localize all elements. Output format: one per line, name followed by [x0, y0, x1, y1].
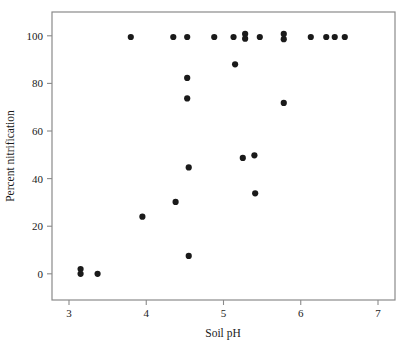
scatter-point	[251, 152, 257, 158]
y-tick-label: 100	[27, 30, 44, 42]
scatter-point	[332, 34, 338, 40]
scatter-point	[308, 34, 314, 40]
x-tick-label: 4	[143, 307, 149, 319]
scatter-point	[173, 199, 179, 205]
scatter-point	[184, 95, 190, 101]
scatter-point	[281, 36, 287, 42]
scatter-point	[184, 75, 190, 81]
y-tick-label: 0	[38, 268, 44, 280]
scatter-point	[230, 34, 236, 40]
scatter-point	[94, 271, 100, 277]
soil-ph-nitrification-scatter: 34567 020406080100 Soil pH Percent nitri…	[0, 0, 412, 349]
scatter-plot-figure: 34567 020406080100 Soil pH Percent nitri…	[0, 0, 412, 349]
y-tick-label: 60	[32, 125, 44, 137]
scatter-point	[77, 271, 83, 277]
x-tick-label: 5	[221, 307, 227, 319]
scatter-point	[240, 155, 246, 161]
x-tick-label: 3	[66, 307, 72, 319]
scatter-point	[252, 190, 258, 196]
scatter-point	[281, 100, 287, 106]
scatter-point	[232, 61, 238, 67]
y-tick-label: 80	[32, 77, 44, 89]
y-axis-title: Percent nitrification	[4, 110, 16, 202]
scatter-point	[128, 34, 134, 40]
y-tick-label: 20	[32, 220, 44, 232]
scatter-point	[139, 214, 145, 220]
scatter-point	[342, 34, 348, 40]
scatter-point	[211, 34, 217, 40]
scatter-point	[257, 34, 263, 40]
x-tick-label: 7	[375, 307, 381, 319]
figure-background	[0, 0, 412, 349]
scatter-point	[186, 253, 192, 259]
x-tick-label: 6	[298, 307, 304, 319]
scatter-point	[170, 34, 176, 40]
scatter-point	[186, 164, 192, 170]
y-tick-label: 40	[32, 173, 44, 185]
scatter-point	[323, 34, 329, 40]
x-axis-title: Soil pH	[205, 327, 240, 340]
scatter-point	[184, 34, 190, 40]
scatter-point	[242, 36, 248, 42]
